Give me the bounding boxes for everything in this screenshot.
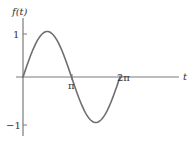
sine-chart: f(t) t 1 −1 π 2π	[0, 0, 194, 141]
y-axis-label: f(t)	[11, 6, 28, 17]
y-tick-label-1: 1	[13, 29, 19, 40]
x-tick-label-2pi: 2π	[117, 72, 130, 83]
x-axis-label: t	[183, 71, 188, 82]
y-tick-label-neg1: −1	[6, 120, 21, 131]
x-tick-label-pi: π	[68, 80, 75, 91]
